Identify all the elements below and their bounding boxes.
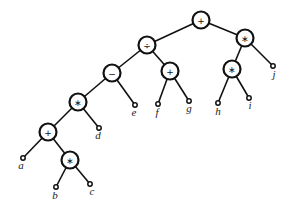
operator-node: ∗ <box>62 152 79 169</box>
leaf-node-g: g <box>186 99 192 114</box>
leaf-node-b: b <box>52 185 58 201</box>
leaf-node-e: e <box>132 103 138 118</box>
operator-node: ∗ <box>237 30 254 47</box>
leaf-label: a <box>18 159 24 171</box>
leaf-label: c <box>90 185 95 197</box>
leaf-node-c: c <box>88 182 95 197</box>
leaf-node-a: a <box>18 156 25 171</box>
leaf-node-f: f <box>155 102 160 118</box>
leaf-node-i: i <box>247 96 252 111</box>
operator-node: + <box>162 63 179 80</box>
leaf-label: e <box>132 106 137 118</box>
leaf-label: d <box>95 129 101 141</box>
leaf-label: j <box>270 68 275 80</box>
tree-nodes: +÷∗−+∗∗+∗abcdefghij <box>18 12 275 202</box>
leaf-node-d: d <box>95 126 101 141</box>
operator-label: + <box>197 16 205 26</box>
operator-label: + <box>166 67 174 77</box>
leaf-label: i <box>248 99 251 111</box>
leaf-label: f <box>155 106 160 118</box>
operator-label: ÷ <box>143 41 151 51</box>
leaf-label: g <box>186 102 192 114</box>
leaf-node-h: h <box>215 101 221 117</box>
operator-node: ÷ <box>139 37 156 54</box>
operator-node: − <box>104 65 121 82</box>
expression-tree-diagram: +÷∗−+∗∗+∗abcdefghij <box>0 0 291 212</box>
leaf-label: b <box>52 189 58 201</box>
operator-label: ∗ <box>74 98 82 108</box>
operator-label: ∗ <box>228 65 236 75</box>
operator-label: ∗ <box>66 156 74 166</box>
operator-node: + <box>193 12 210 29</box>
operator-node: ∗ <box>70 94 87 111</box>
operator-node: + <box>40 124 57 141</box>
operator-label: − <box>108 69 116 79</box>
operator-label: + <box>44 128 52 138</box>
leaf-label: h <box>215 105 221 117</box>
operator-label: ∗ <box>241 34 249 44</box>
operator-node: ∗ <box>224 61 241 78</box>
leaf-node-j: j <box>270 64 275 80</box>
